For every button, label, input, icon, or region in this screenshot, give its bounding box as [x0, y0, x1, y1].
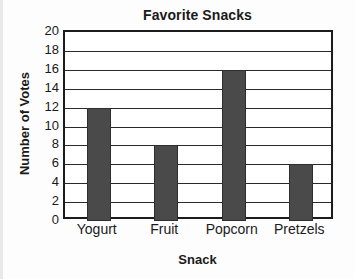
gridline [65, 70, 331, 71]
chart-title: Favorite Snacks [60, 7, 335, 23]
y-tick-label: 6 [33, 156, 59, 169]
x-axis-title: Snack [60, 252, 335, 267]
y-tick-label: 10 [33, 119, 59, 132]
x-tick-label-popcorn: Popcorn [206, 222, 258, 236]
gridline [65, 89, 331, 90]
x-axis-tick-labels: YogurtFruitPopcornPretzels [63, 222, 333, 244]
x-tick-label-pretzels: Pretzels [274, 222, 325, 236]
bar-yogurt [87, 108, 111, 221]
x-tick-label-yogurt: Yogurt [77, 222, 117, 236]
y-tick-label: 2 [33, 194, 59, 207]
gridline [65, 51, 331, 52]
y-tick-label: 12 [33, 100, 59, 113]
y-axis-tick-labels: 20181614121086420 [29, 30, 59, 219]
y-tick-label: 14 [33, 81, 59, 94]
y-tick-label: 8 [33, 137, 59, 150]
bar-chart-figure: Favorite Snacks Number of Votes 20181614… [0, 0, 355, 279]
page-edge-artifact [0, 0, 3, 279]
bar-popcorn [222, 70, 246, 221]
x-tick-label-fruit: Fruit [150, 222, 178, 236]
y-tick-label: 0 [33, 213, 59, 226]
y-tick-label: 16 [33, 62, 59, 75]
y-tick-label: 4 [33, 175, 59, 188]
y-tick-label: 18 [33, 43, 59, 56]
y-tick-label: 20 [33, 24, 59, 37]
bar-pretzels [289, 164, 313, 221]
bar-fruit [154, 145, 178, 221]
plot-area [63, 30, 333, 219]
